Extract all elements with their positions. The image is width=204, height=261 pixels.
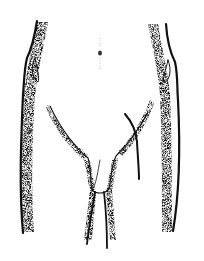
navel xyxy=(98,38,102,70)
groin-outline xyxy=(50,106,148,193)
torso-illustration xyxy=(0,0,204,261)
stipple-shading xyxy=(21,22,172,240)
right-inner-thigh-line xyxy=(104,192,107,248)
illustration-canvas xyxy=(0,0,204,261)
